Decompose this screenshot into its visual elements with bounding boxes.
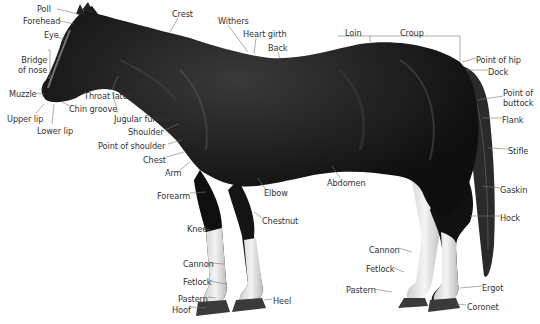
label-bridge-of-nose: Bridgeof nose — [18, 55, 47, 75]
label-elbow: Elbow — [264, 188, 288, 198]
label-loin: Loin — [345, 28, 362, 38]
label-muzzle: Muzzle — [9, 89, 37, 99]
label-pastern-fore: Pastern — [178, 294, 208, 304]
label-crest: Crest — [172, 9, 193, 19]
label-gaskin: Gaskin — [500, 185, 527, 195]
label-chestnut: Chestnut — [262, 216, 298, 226]
label-coronet: Coronet — [467, 302, 499, 312]
label-cannon-hind: Cannon — [369, 245, 400, 255]
label-heel: Heel — [273, 296, 291, 306]
label-croup: Croup — [400, 28, 424, 38]
label-point-of-shoulder: Point of shoulder — [98, 141, 165, 151]
label-fetlock-hind: Fetlock — [366, 264, 394, 274]
label-jugular-furrow: Jugular furrow — [114, 114, 170, 124]
label-fetlock-fore: Fetlock — [183, 277, 211, 287]
label-pastern-hind: Pastern — [346, 285, 376, 295]
label-chest: Chest — [143, 155, 166, 165]
label-lower-lip: Lower lip — [37, 126, 73, 136]
label-abdomen: Abdomen — [327, 178, 366, 188]
label-poll: Poll — [37, 4, 51, 14]
label-shoulder: Shoulder — [128, 127, 164, 137]
label-heart-girth: Heart girth — [243, 29, 287, 39]
label-withers: Withers — [218, 16, 249, 26]
label-upper-lip: Upper lip — [7, 114, 43, 124]
label-throat-latch: Throat latch — [84, 91, 132, 101]
label-forehead: Forehead — [23, 16, 60, 26]
label-eye: Eye — [44, 30, 59, 40]
label-point-of-buttock: Point ofbuttock — [503, 88, 533, 108]
label-dock: Dock — [488, 67, 508, 77]
label-chin-groove: Chin groove — [69, 104, 117, 114]
label-arm: Arm — [165, 168, 182, 178]
label-flank: Flank — [502, 115, 523, 125]
label-stifle: Stifle — [508, 146, 528, 156]
label-knee: Knee — [187, 224, 207, 234]
horse-anatomy-diagram: PollForeheadEyeBridgeof noseMuzzleThroat… — [0, 0, 540, 324]
label-hoof: Hoof — [172, 305, 191, 315]
label-back: Back — [268, 43, 287, 53]
label-cannon-fore: Cannon — [183, 259, 214, 269]
label-forearm: Forearm — [157, 191, 190, 201]
label-point-of-hip: Point of hip — [476, 55, 521, 65]
label-hock: Hock — [500, 213, 520, 223]
label-ergot: Ergot — [482, 283, 503, 293]
